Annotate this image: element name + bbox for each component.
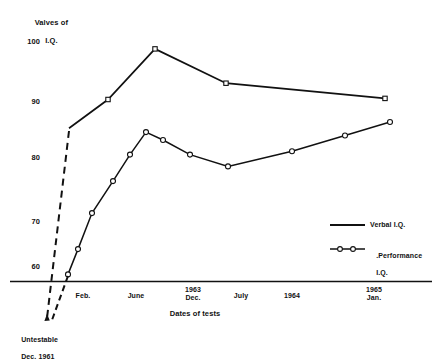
data-point-circle <box>90 211 95 216</box>
x-tick-4: 1964 <box>262 292 322 300</box>
x-tick-5: 1965Jan. <box>344 286 404 302</box>
x-tick-0: Feb. <box>53 292 113 300</box>
verbal-dashed-tail <box>47 131 69 318</box>
data-point-square <box>224 81 228 85</box>
data-point-circle <box>128 152 133 157</box>
data-point-circle <box>161 138 166 143</box>
x-axis-title: Dates of tests <box>150 309 240 318</box>
series-line <box>69 49 385 128</box>
data-point-circle <box>188 152 193 157</box>
arrowhead-icon <box>44 314 49 321</box>
untestable-note: Untestable Dec. 1961 <box>13 327 83 363</box>
legend-label-verbal: Verbal I.Q. <box>370 221 438 230</box>
data-point-circle <box>76 247 81 252</box>
data-point-square <box>383 96 387 100</box>
x-tick-line1: Feb. <box>76 292 91 299</box>
legend-marks <box>330 225 365 251</box>
legend-circle-marker-1 <box>338 247 343 252</box>
data-point-circle <box>343 133 348 138</box>
data-point-circle <box>111 179 116 184</box>
x-tick-line1: July <box>234 292 248 299</box>
data-point-circle <box>388 120 393 125</box>
x-tick-1: June <box>106 292 166 300</box>
data-point-square <box>153 47 157 51</box>
series-line <box>68 122 390 274</box>
series-performance <box>66 120 393 277</box>
x-tick-line1: 1965 <box>366 286 382 293</box>
legend-label-performance-line1: .Performance <box>376 252 422 259</box>
data-point-circle <box>144 130 149 135</box>
legend-label-performance: .Performance I.Q. <box>368 243 438 286</box>
data-point-circle <box>226 164 231 169</box>
x-tick-line1: June <box>128 292 145 299</box>
legend-circle-marker-2 <box>351 247 356 252</box>
x-tick-line2: Dec. <box>185 294 200 301</box>
data-point-circle <box>290 149 295 154</box>
x-tick-line2: Jan. <box>367 294 381 301</box>
series-verbal <box>69 47 387 129</box>
series-layer <box>66 47 393 277</box>
legend-label-performance-line2: I.Q. <box>376 269 388 276</box>
x-tick-line1: 1964 <box>284 292 300 299</box>
data-point-square <box>106 97 110 101</box>
untestable-note-line1: Untestable <box>21 336 58 343</box>
x-tick-line1: 1963 <box>185 286 201 293</box>
untestable-note-line2: Dec. 1961 <box>21 353 54 360</box>
